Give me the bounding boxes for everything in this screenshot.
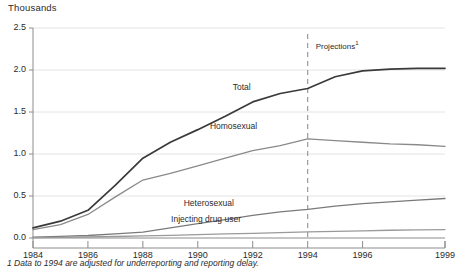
gridlines-group [33,28,445,238]
x-tick-label: 1999 [425,250,465,260]
series-line-injecting [33,230,445,238]
x-tick-label: 1996 [343,250,383,260]
y-tick-marks-group [29,28,33,238]
projections-annotation-text: Projections [316,42,356,51]
x-tick-marks-group [33,241,445,248]
y-tick-label: 2.0 [2,64,26,74]
y-tick-label: 0.5 [2,190,26,200]
series-label-injecting-drug-user: Injecting drug user [171,214,241,224]
series-label-heterosexual: Heterosexual [184,198,234,208]
projections-footnote-marker: 1 [355,40,358,46]
y-tick-label: 1.0 [2,148,26,158]
line-chart-svg [0,0,465,273]
series-lines-group [33,68,445,237]
footnote-text: 1 Data to 1994 are adjusted for underrep… [7,258,259,268]
chart-page: Thousands 0.00.51.01.52.02.5 19841986198… [0,0,465,273]
y-tick-label: 0.0 [2,232,26,242]
series-label-homosexual: Homosexual [210,121,257,131]
x-tick-label: 1994 [288,250,328,260]
y-tick-label: 2.5 [2,22,26,32]
series-label-total: Total [233,82,251,92]
y-tick-label: 1.5 [2,106,26,116]
projections-annotation: Projections1 [316,40,359,51]
